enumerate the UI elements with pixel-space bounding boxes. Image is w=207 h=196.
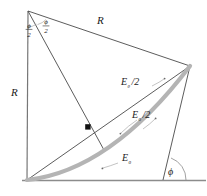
leader-e-zero-half-alt (143, 119, 155, 129)
top-radius-line (28, 11, 190, 66)
label-angle-half-left-den: 2 (27, 31, 31, 39)
label-e-zero-half: E 0 /2 (131, 109, 150, 122)
label-angle-half-right-den: 2 (44, 27, 48, 35)
label-e-theta-half-subscript: θ (128, 84, 131, 89)
label-e-theta-half-base: E (120, 76, 127, 87)
leader-dot-e-zero-half (120, 133, 122, 135)
label-angle-half-right-num: ϕ (44, 18, 48, 26)
chord-line (27, 66, 190, 180)
phasor-diagram: R R ϕ 2 ϕ 2 E θ /2 E 0 /2 E 0 ϕ (0, 0, 207, 196)
label-e-zero: E 0 (121, 152, 132, 165)
bisector-line (28, 11, 104, 150)
label-radius-top: R (96, 14, 104, 26)
label-e-zero-half-base: E (131, 109, 138, 120)
label-e-zero-half-divisor: /2 (142, 109, 151, 120)
label-e-theta-half: E θ /2 (120, 76, 139, 89)
phi-angle-arc (171, 158, 186, 180)
label-phi: ϕ (168, 166, 173, 177)
label-radius-left: R (10, 86, 18, 98)
label-e-theta-half-divisor: /2 (131, 76, 140, 87)
label-angle-half-left-num: ϕ (27, 22, 31, 30)
label-angle-half-left: ϕ 2 (26, 22, 33, 39)
label-e-zero-subscript: 0 (129, 160, 132, 165)
leader-dot-e-zero-half-alt (155, 118, 157, 120)
leader-dot-e-theta-half (164, 78, 166, 80)
leader-dot-e-zero (102, 168, 104, 170)
label-e-zero-base: E (121, 152, 128, 163)
label-angle-half-right: ϕ 2 (43, 18, 50, 35)
midpoint-dot (85, 124, 90, 129)
leader-e-zero (103, 163, 118, 168)
